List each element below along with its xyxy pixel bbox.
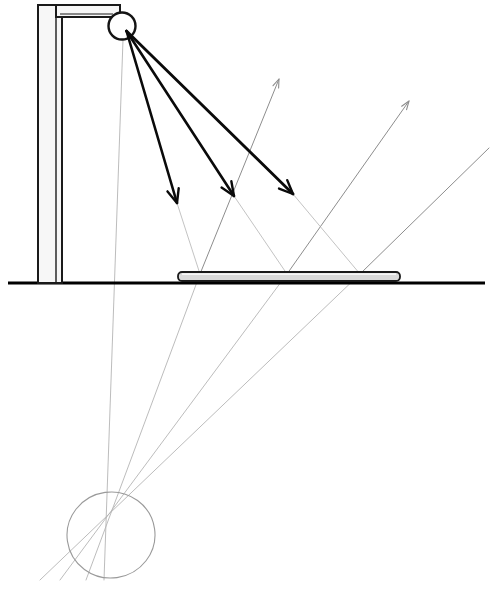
virtual-image-ellipse <box>61 486 160 583</box>
construction-line-2 <box>86 274 200 580</box>
incident-ray-2 <box>127 31 235 196</box>
incident-extension-2 <box>234 196 287 274</box>
post-arm <box>56 5 120 17</box>
reflected-ray-group <box>200 79 489 274</box>
mirror-plate-group <box>178 272 400 281</box>
incident-extension-3 <box>293 194 360 274</box>
reflected-ray-arrowhead-2 <box>402 101 409 110</box>
construction-line-group <box>40 40 360 580</box>
incident-ray-group <box>127 31 294 203</box>
support-post-group <box>38 5 120 283</box>
post-column <box>38 5 62 283</box>
optics-ray-diagram: Specular reflection ray diagram <box>0 0 493 589</box>
mirror-plate <box>178 272 400 281</box>
virtual-image-group <box>61 486 160 583</box>
incident-extension-1 <box>177 203 200 274</box>
reflected-ray-3 <box>360 148 489 274</box>
construction-line-4 <box>40 274 360 580</box>
construction-line-3 <box>60 274 287 580</box>
ray-diagram-canvas: Specular reflection ray diagram <box>0 0 493 589</box>
reflected-ray-2 <box>287 101 409 274</box>
